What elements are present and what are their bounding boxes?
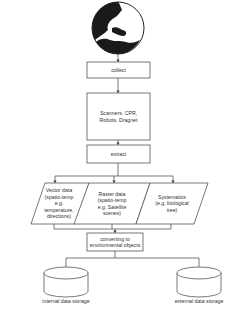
internal-storage-cylinder (44, 267, 88, 297)
internal-storage-label: internal data storage (30, 297, 102, 305)
collect-label: collect (87, 62, 150, 78)
raster-data-label: Raster data (spatio-temp e.g. Satellite … (84, 183, 140, 224)
vector-data-label: Vector data (spatio-temp e.g. temperatur… (36, 183, 82, 224)
sources-label: Scanners, CPR, Robots, Dragnet (87, 93, 150, 140)
extract-label: extract (87, 145, 150, 163)
globe-icon (92, 2, 144, 54)
external-storage-label: external data storage (163, 297, 235, 305)
external-storage-cylinder (177, 267, 221, 297)
systematics-label: Systematics (e.g. biological tree) (145, 183, 199, 224)
convert-label: converting to environmental objects (87, 233, 143, 251)
